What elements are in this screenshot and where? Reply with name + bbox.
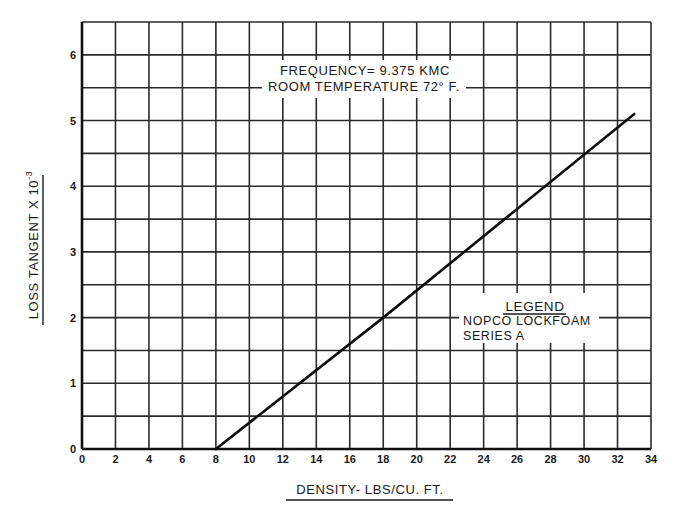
temperature-annotation: ROOM TEMPERATURE 72° F. — [268, 79, 460, 94]
x-tick-label: 24 — [478, 453, 491, 465]
x-tick-label: 12 — [277, 453, 289, 465]
y-tick-label: 1 — [70, 377, 76, 389]
y-tick-label: 5 — [70, 115, 76, 127]
x-tick-label: 18 — [377, 453, 389, 465]
x-tick-label: 34 — [645, 453, 658, 465]
x-tick-label: 28 — [544, 453, 556, 465]
svg-text:LOSS TANGENT X 10-3: LOSS TANGENT X 10-3 — [24, 171, 41, 320]
y-axis-label-exponent: -3 — [24, 171, 34, 180]
x-tick-label: 22 — [444, 453, 456, 465]
x-tick-label: 32 — [611, 453, 623, 465]
conditions-annotation: FREQUENCY= 9.375 KMC ROOM TEMPERATURE 72… — [262, 60, 466, 98]
legend-entry-line1: NOPCO LOCKFOAM — [463, 314, 591, 328]
frequency-annotation: FREQUENCY= 9.375 KMC — [280, 63, 450, 78]
x-tick-label: 30 — [578, 453, 590, 465]
y-tick-label: 4 — [70, 180, 77, 192]
x-tick-label: 26 — [511, 453, 523, 465]
x-tick-label: 16 — [344, 453, 356, 465]
x-tick-label: 8 — [213, 453, 219, 465]
x-tick-label: 4 — [146, 453, 153, 465]
x-tick-label: 20 — [411, 453, 423, 465]
x-tick-label: 6 — [179, 453, 185, 465]
legend-entry-line2: SERIES A — [463, 329, 525, 343]
legend: LEGEND NOPCO LOCKFOAM SERIES A — [459, 293, 599, 343]
y-tick-label: 6 — [70, 49, 76, 61]
legend-title: LEGEND — [505, 299, 564, 314]
y-axis-title: LOSS TANGENT X 10-3 — [24, 171, 43, 325]
x-tick-label: 0 — [79, 453, 85, 465]
y-tick-label: 0 — [70, 443, 76, 455]
x-axis-label: DENSITY- LBS/CU. FT. — [296, 482, 443, 497]
y-axis-label: LOSS TANGENT X 10 — [26, 180, 41, 320]
y-tick-label: 2 — [70, 312, 76, 324]
x-tick-label: 10 — [243, 453, 255, 465]
loss-tangent-chart: 0246810121416182022242628303234 0123456 … — [0, 0, 682, 508]
y-tick-label: 3 — [70, 246, 76, 258]
x-tick-label: 2 — [112, 453, 118, 465]
x-tick-label: 14 — [310, 453, 323, 465]
